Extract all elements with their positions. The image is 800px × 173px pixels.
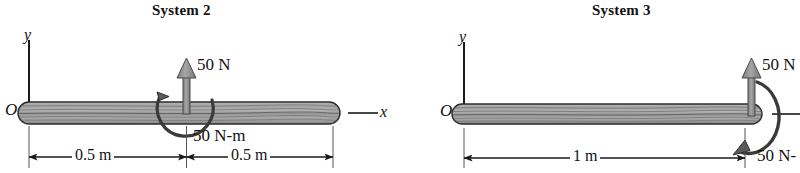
system-3-moment-label: 50 N- [757, 146, 796, 166]
system-2-moment-label: 50 N-m [193, 126, 245, 146]
system-3-group [452, 42, 800, 168]
system-2-force-label: 50 N [197, 55, 231, 75]
system-3-dimension-label: 1 m [570, 147, 600, 165]
system-2-dimension-label-left: 0.5 m [72, 146, 114, 164]
diagram-vector-layer [0, 0, 800, 173]
system-3-origin-label: O [440, 101, 452, 121]
system-2-x-axis-label: x [380, 103, 387, 121]
system-2-beam [18, 102, 340, 124]
system-3-force-label: 50 N [762, 55, 796, 75]
system-2-dimension-label-right: 0.5 m [228, 146, 270, 164]
figure-canvas: System 2 System 3 [0, 0, 800, 173]
system-2-y-axis-label: y [24, 26, 31, 44]
system-3-beam [452, 104, 762, 124]
system-3-y-axis-label: y [459, 28, 466, 46]
system-2-origin-label: O [5, 100, 17, 120]
